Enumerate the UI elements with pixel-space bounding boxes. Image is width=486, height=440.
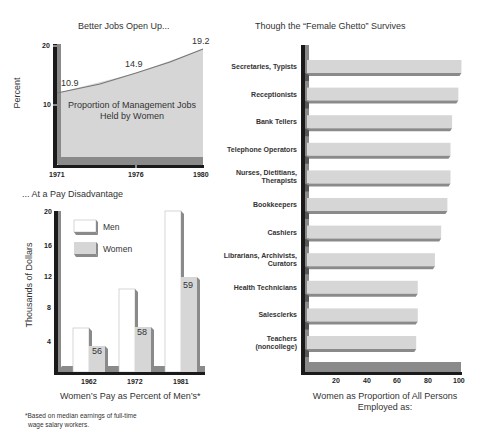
bar-4 xyxy=(307,170,451,183)
ghetto-x-tick-60: 60 xyxy=(393,377,401,384)
category-label: Teachers(noncollege) xyxy=(200,335,297,351)
category-label: Secretaries, Typists xyxy=(200,63,297,71)
bar-8 xyxy=(307,281,418,294)
caption-line-2: Employed as: xyxy=(300,402,470,413)
bar-2 xyxy=(307,115,452,128)
category-label: Nurses, Dietitians,Therapists xyxy=(200,169,297,185)
bar-3 xyxy=(307,143,451,156)
bar-1 xyxy=(307,88,458,101)
category-label: Receptionists xyxy=(200,91,297,99)
category-label: Cashiers xyxy=(200,229,297,237)
bar-10 xyxy=(307,336,416,349)
category-label: Salesclerks xyxy=(200,311,297,319)
ghetto-x-tick-40: 40 xyxy=(363,377,371,384)
ghetto-x-tick-100: 100 xyxy=(453,377,465,384)
category-label: Librarians, Archivists,Curators xyxy=(200,252,297,268)
bar-9 xyxy=(307,308,418,321)
ghetto-x-tick-20: 20 xyxy=(332,377,340,384)
category-label: Bank Tellers xyxy=(200,118,297,126)
bar-0 xyxy=(307,60,461,73)
bar-6 xyxy=(307,226,441,239)
bar-5 xyxy=(307,198,447,211)
caption-line-1: Women as Proportion of All Persons xyxy=(300,391,470,402)
category-label: Telephone Operators xyxy=(200,146,297,154)
ghetto-caption: Women as Proportion of All Persons Emplo… xyxy=(300,391,470,413)
category-label: Bookkeepers xyxy=(200,201,297,209)
bar-7 xyxy=(307,253,435,266)
ghetto-x-tick-80: 80 xyxy=(424,377,432,384)
category-label: Health Technicians xyxy=(200,284,297,292)
